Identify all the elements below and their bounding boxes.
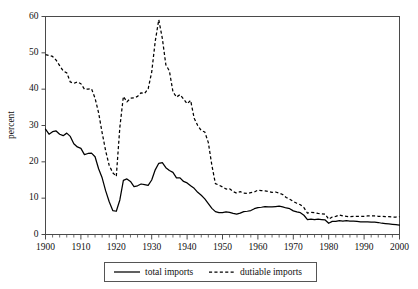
x-tick-label: 1900	[36, 242, 55, 252]
legend-label-dutiable-imports: dutiable imports	[240, 267, 302, 277]
y-tick-label: 60	[29, 11, 39, 21]
y-tick-label: 30	[29, 120, 39, 130]
x-tick-label: 1940	[178, 242, 197, 252]
x-tick-label: 1960	[248, 242, 267, 252]
legend-label-total-imports: total imports	[145, 267, 194, 277]
y-tick-label: 40	[29, 83, 39, 93]
line-chart: 0102030405060 19001910192019301940195019…	[0, 0, 418, 289]
x-tick-label: 1910	[71, 242, 90, 252]
chart-figure: 0102030405060 19001910192019301940195019…	[0, 0, 418, 289]
x-tick-label: 1980	[319, 242, 338, 252]
x-tick-label: 1930	[142, 242, 161, 252]
y-tick-label: 50	[29, 47, 39, 57]
x-tick-label: 2000	[390, 242, 409, 252]
chart-legend: total imports dutiable imports	[105, 263, 317, 282]
y-tick-label: 10	[29, 192, 39, 202]
x-tick-label: 1990	[355, 242, 374, 252]
x-tick-label: 1970	[284, 242, 303, 252]
y-tick-label: 0	[34, 229, 39, 239]
y-tick-label: 20	[29, 156, 39, 166]
y-axis-title: percent	[6, 111, 16, 139]
x-tick-label: 1920	[107, 242, 126, 252]
x-tick-label: 1950	[213, 242, 232, 252]
